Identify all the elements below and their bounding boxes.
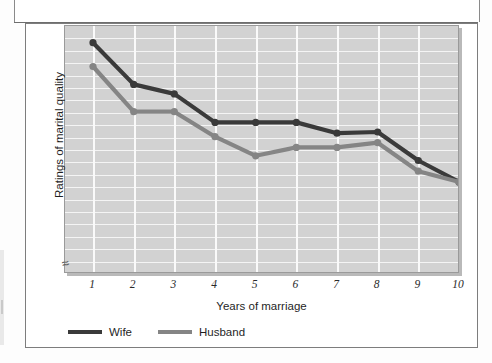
- data-point-husband: [252, 152, 259, 159]
- legend-item-husband[interactable]: Husband: [158, 326, 245, 338]
- data-point-husband: [130, 108, 137, 115]
- x-tick-label: 1: [80, 278, 104, 290]
- data-point-wife: [333, 130, 340, 137]
- legend-label-husband: Husband: [199, 326, 245, 338]
- x-axis-tick-labels: 12345678910: [64, 278, 459, 296]
- data-series-layer: [65, 26, 459, 273]
- x-tick-label: 5: [243, 278, 267, 290]
- legend-swatch-wife: [68, 330, 102, 334]
- x-tick-label: 10: [446, 278, 470, 290]
- x-tick-label: 2: [121, 278, 145, 290]
- scan-edge-artifact: [0, 250, 4, 345]
- chart-legend: WifeHusband: [68, 324, 271, 340]
- data-point-wife: [130, 81, 137, 88]
- data-point-wife: [415, 157, 422, 164]
- data-point-wife: [89, 39, 96, 46]
- y-axis-title: Ratings of marital quality: [53, 40, 65, 230]
- x-tick-label: 6: [283, 278, 307, 290]
- data-point-husband: [171, 108, 178, 115]
- data-point-husband: [211, 133, 218, 140]
- x-tick-label: 4: [202, 278, 226, 290]
- legend-swatch-husband: [158, 330, 192, 334]
- figure-container: ≈ 12345678910 Years of marriage Ratings …: [25, 23, 478, 348]
- legend-label-wife: Wife: [109, 326, 132, 338]
- data-point-husband: [415, 168, 422, 175]
- legend-item-wife[interactable]: Wife: [68, 326, 132, 338]
- data-point-wife: [374, 128, 381, 135]
- data-point-wife: [171, 90, 178, 97]
- plot-area: [64, 25, 459, 273]
- x-axis-title: Years of marriage: [64, 300, 459, 312]
- data-point-husband: [89, 63, 96, 70]
- x-tick-label: 8: [365, 278, 389, 290]
- scan-edge-artifact-secondary: [1, 300, 3, 314]
- data-point-wife: [252, 119, 259, 126]
- x-tick-label: 9: [405, 278, 429, 290]
- data-point-husband: [374, 139, 381, 146]
- data-point-wife: [211, 119, 218, 126]
- page-header-band: [14, 0, 480, 22]
- data-point-husband: [293, 144, 300, 151]
- x-tick-label: 3: [161, 278, 185, 290]
- page-canvas: ≈ 12345678910 Years of marriage Ratings …: [0, 0, 492, 363]
- x-tick-label: 7: [324, 278, 348, 290]
- data-point-wife: [293, 119, 300, 126]
- data-point-husband: [333, 144, 340, 151]
